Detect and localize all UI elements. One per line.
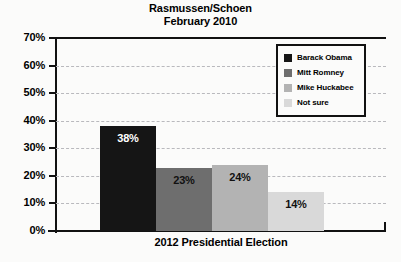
legend-swatch-icon	[284, 84, 292, 92]
y-axis-label: 70%	[0, 32, 45, 43]
bar-value-label: 14%	[268, 198, 324, 210]
legend-item: Not sure	[284, 95, 360, 110]
x-axis-title: 2012 Presidential Election	[56, 236, 386, 248]
y-axis-label: 50%	[0, 87, 45, 98]
legend-swatch-icon	[284, 69, 292, 77]
legend-item-label: Mike Huckabee	[297, 83, 354, 92]
legend-item: Mitt Romney	[284, 65, 360, 80]
legend-item-label: Barack Obama	[297, 53, 352, 62]
legend-item-label: Not sure	[297, 98, 329, 107]
bar-chart: Rasmussen/Schoen February 2010 0%10%20%3…	[0, 0, 401, 262]
y-axis-label: 60%	[0, 60, 45, 71]
chart-title-main: Rasmussen/Schoen	[149, 2, 252, 14]
y-axis-tick	[49, 37, 56, 39]
y-axis-tick	[49, 65, 56, 67]
y-axis-tick	[49, 92, 56, 94]
y-axis-label: 10%	[0, 197, 45, 208]
legend-swatch-icon	[284, 99, 292, 107]
bar-value-label: 38%	[100, 132, 156, 144]
bar-value-label: 23%	[156, 174, 212, 186]
chart-subtitle: February 2010	[0, 15, 401, 28]
y-axis-tick	[49, 175, 56, 177]
legend-item: Mike Huckabee	[284, 80, 360, 95]
legend-item: Barack Obama	[284, 50, 360, 65]
y-axis-tick	[49, 147, 56, 149]
y-axis-label: 30%	[0, 142, 45, 153]
y-axis-label: 0%	[0, 225, 45, 236]
bar-value-label: 24%	[212, 171, 268, 183]
legend-swatch-icon	[284, 54, 292, 62]
y-axis-tick	[49, 202, 56, 204]
y-axis-label: 20%	[0, 170, 45, 181]
y-axis-tick	[49, 230, 56, 232]
chart-title: Rasmussen/Schoen February 2010	[0, 2, 401, 28]
y-axis-tick	[49, 120, 56, 122]
y-axis-label: 40%	[0, 115, 45, 126]
chart-legend: Barack ObamaMitt RomneyMike HuckabeeNot …	[276, 44, 366, 117]
legend-item-label: Mitt Romney	[297, 68, 344, 77]
